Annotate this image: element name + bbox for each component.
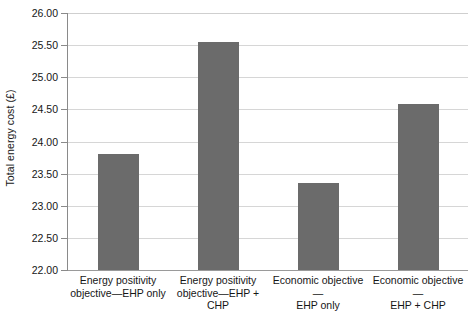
x-axis-tick-label-line: Economic objective— [268, 274, 368, 299]
bar [98, 154, 139, 270]
y-axis-tick-label: 25.50 [14, 40, 58, 51]
x-axis-tick-label-line: Economic objective— [368, 274, 468, 299]
x-axis-tick-label-line: objective—EHP only [68, 287, 168, 300]
plot-area [68, 13, 468, 270]
x-axis-tick-label: Energy positivityobjective—EHP +CHP [168, 274, 268, 312]
y-axis-tick-label: 24.00 [14, 137, 58, 148]
y-axis-tick [61, 238, 67, 239]
y-axis-tick [61, 109, 67, 110]
gridline [68, 270, 468, 271]
x-axis-tick-label: Economic objective—EHP + CHP [368, 274, 468, 312]
y-axis-tick [61, 142, 67, 143]
y-axis-tick-label: 22.50 [14, 233, 58, 244]
y-axis-tick-label: 23.00 [14, 201, 58, 212]
x-axis-tick-label: Energy positivityobjective—EHP only [68, 274, 168, 299]
y-axis-tick-label: 23.50 [14, 169, 58, 180]
bar [298, 183, 339, 270]
x-axis-tick-labels: Energy positivityobjective—EHP onlyEnerg… [68, 274, 468, 320]
gridline [68, 45, 468, 46]
x-axis-tick-label-line: objective—EHP + [168, 287, 268, 300]
y-axis-tick [61, 45, 67, 46]
gridline [68, 13, 468, 14]
x-axis-tick-label-line: EHP only [268, 299, 368, 312]
x-axis-tick-label-line: Energy positivity [68, 274, 168, 287]
x-axis-tick-label-line: CHP [168, 299, 268, 312]
y-axis-tick [61, 77, 67, 78]
y-axis-tick [61, 174, 67, 175]
bar [398, 104, 439, 270]
bar [198, 42, 239, 270]
y-axis-tick [61, 13, 67, 14]
y-axis-tick-label: 26.00 [14, 8, 58, 19]
y-axis-tick [61, 206, 67, 207]
bar-chart-figure: Total energy cost (£) 26.0025.5025.0024.… [0, 0, 471, 320]
x-axis-tick-label-line: Energy positivity [168, 274, 268, 287]
x-axis-tick-label: Economic objective—EHP only [268, 274, 368, 312]
y-axis-tick-labels: 26.0025.5025.0024.5024.0023.5023.0022.50… [12, 0, 58, 320]
y-axis-tick [61, 270, 67, 271]
gridline [68, 77, 468, 78]
y-axis-tick-label: 25.00 [14, 72, 58, 83]
x-axis-tick-label-line: EHP + CHP [368, 299, 468, 312]
y-axis-tick-label: 24.50 [14, 104, 58, 115]
y-axis-tick-label: 22.00 [14, 265, 58, 276]
